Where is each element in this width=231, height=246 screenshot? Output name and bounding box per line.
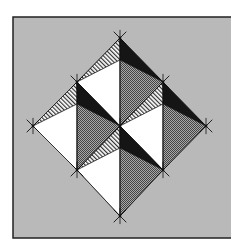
quilt-diagram [0, 0, 231, 246]
vertex-dot [32, 125, 35, 128]
vertex-dot [119, 37, 122, 40]
vertex-dot [76, 81, 79, 84]
vertex-dot [76, 169, 79, 172]
vertex-dot [119, 215, 122, 218]
vertex-dot [162, 169, 165, 172]
vertex-dot [205, 125, 208, 128]
vertex-dot [162, 81, 165, 84]
vertex-dot [119, 125, 122, 128]
